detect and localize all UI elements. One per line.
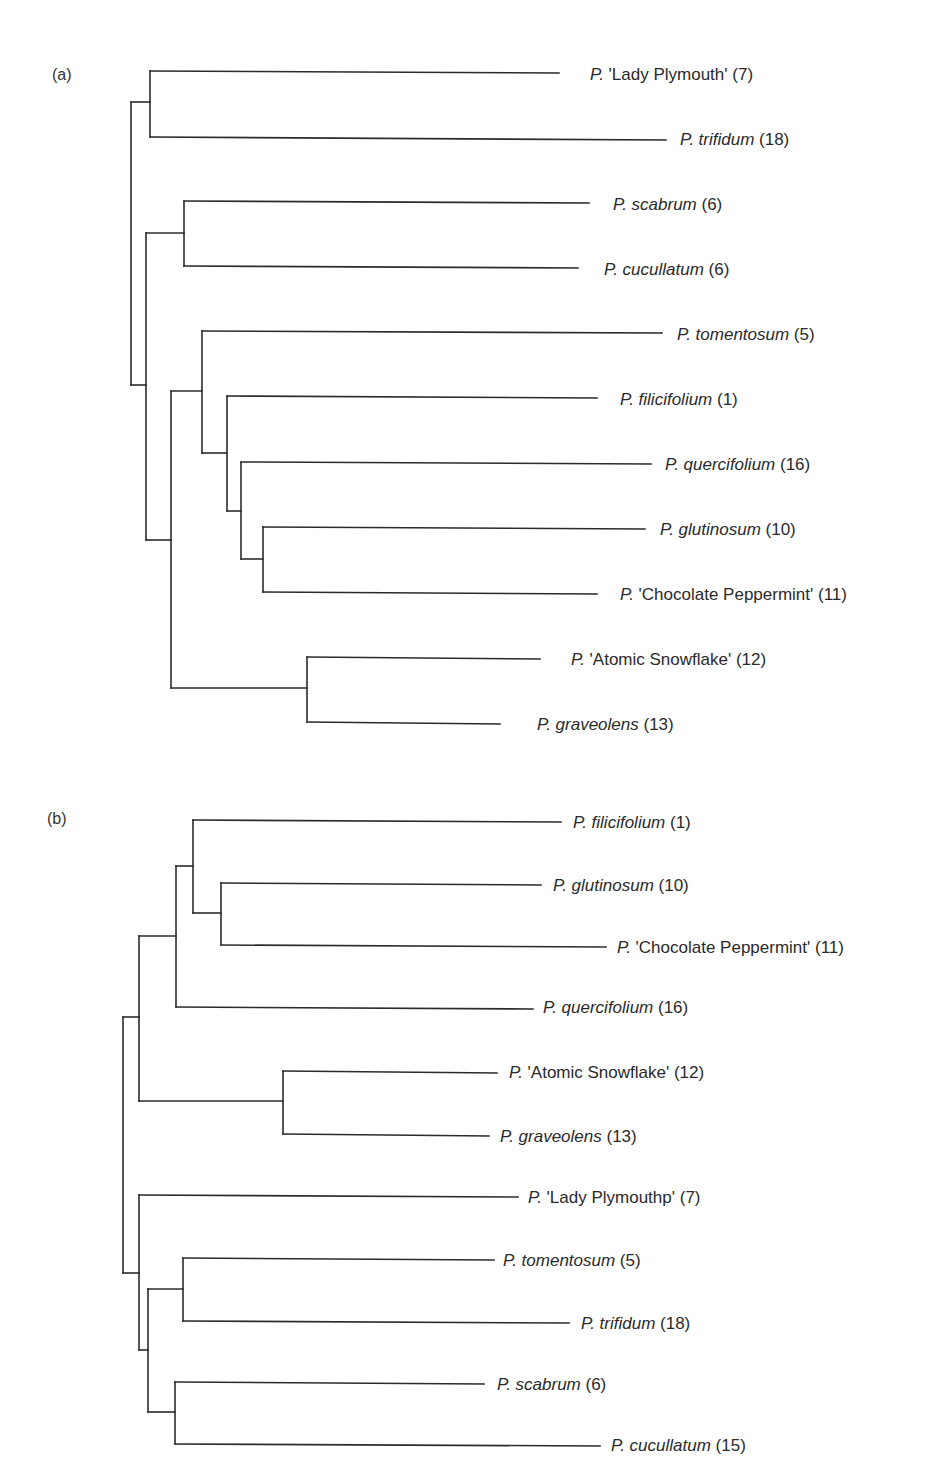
branch-line — [221, 883, 541, 885]
branch-line — [193, 820, 561, 822]
taxon-name: tomentosum — [522, 1251, 616, 1270]
branch-line — [283, 1071, 497, 1073]
taxon-name: 'Atomic Snowflake' — [528, 1063, 670, 1082]
taxon-name: 'Chocolate Peppermint' — [636, 938, 811, 957]
taxon-name: cucullatum — [630, 1436, 711, 1455]
branch-line — [139, 1195, 518, 1197]
genus-abbrev: P. — [581, 1314, 600, 1333]
branch-line — [175, 1444, 600, 1446]
leaf-label: P. filicifolium (1) — [573, 813, 691, 833]
genus-abbrev: P. — [500, 1127, 519, 1146]
taxon-count: (16) — [653, 998, 688, 1017]
panel-b-dendrogram — [0, 0, 943, 1458]
leaf-label: P. trifidum (18) — [581, 1314, 690, 1334]
leaf-label: P. 'Chocolate Peppermint' (11) — [617, 938, 844, 958]
taxon-count: (11) — [810, 938, 844, 957]
genus-abbrev: P. — [553, 876, 572, 895]
taxon-count: (5) — [615, 1251, 641, 1270]
taxon-count: (10) — [654, 876, 689, 895]
taxon-name: filicifolium — [592, 813, 666, 832]
taxon-count: (13) — [602, 1127, 637, 1146]
taxon-name: 'Lady Plymouthp' — [547, 1188, 675, 1207]
leaf-label: P. cucullatum (15) — [611, 1436, 746, 1456]
genus-abbrev: P. — [509, 1063, 528, 1082]
genus-abbrev: P. — [543, 998, 562, 1017]
taxon-name: graveolens — [519, 1127, 602, 1146]
leaf-label: P. 'Lady Plymouthp' (7) — [528, 1188, 701, 1208]
leaf-label: P. scabrum (6) — [497, 1375, 606, 1395]
branch-line — [183, 1321, 569, 1323]
genus-abbrev: P. — [503, 1251, 522, 1270]
genus-abbrev: P. — [573, 813, 592, 832]
leaf-label: P. quercifolium (16) — [543, 998, 688, 1018]
branch-line — [176, 1007, 533, 1009]
taxon-count: (1) — [665, 813, 691, 832]
taxon-name: scabrum — [516, 1375, 581, 1394]
taxon-name: glutinosum — [572, 876, 654, 895]
branch-line — [283, 1134, 489, 1136]
taxon-count: (15) — [711, 1436, 746, 1455]
taxon-name: quercifolium — [562, 998, 654, 1017]
leaf-label: P. graveolens (13) — [500, 1127, 637, 1147]
taxon-count: (18) — [655, 1314, 690, 1333]
taxon-name: trifidum — [600, 1314, 656, 1333]
leaf-label: P. tomentosum (5) — [503, 1251, 641, 1271]
genus-abbrev: P. — [528, 1188, 547, 1207]
branch-line — [183, 1258, 494, 1260]
branch-line — [221, 945, 606, 947]
genus-abbrev: P. — [497, 1375, 516, 1394]
taxon-count: (7) — [675, 1188, 701, 1207]
taxon-count: (12) — [669, 1063, 704, 1082]
taxon-count: (6) — [581, 1375, 607, 1394]
leaf-label: P. 'Atomic Snowflake' (12) — [509, 1063, 704, 1083]
genus-abbrev: P. — [611, 1436, 630, 1455]
leaf-label: P. glutinosum (10) — [553, 876, 689, 896]
genus-abbrev: P. — [617, 938, 636, 957]
branch-line — [175, 1382, 484, 1384]
